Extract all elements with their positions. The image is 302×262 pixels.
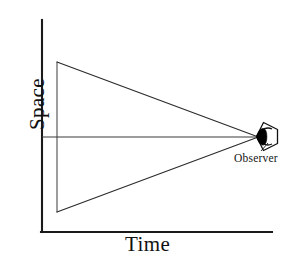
observer-label: Observer [234,152,278,164]
spacetime-observer-figure: Space Time Observer [0,0,302,262]
y-axis-label: Space [25,67,50,141]
lower-light-ray [57,138,257,213]
x-axis-label: Time [125,232,170,257]
upper-light-ray [57,62,257,137]
eye-pupil-icon [257,128,267,145]
